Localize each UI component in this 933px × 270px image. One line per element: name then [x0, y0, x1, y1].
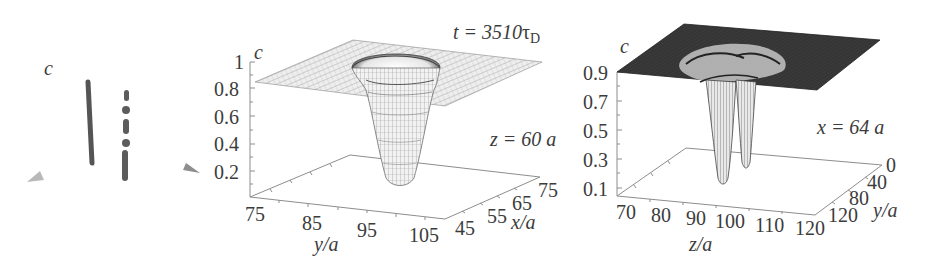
- ytick-c-1: 40: [867, 172, 887, 192]
- ytick-b-3: 105: [409, 225, 439, 245]
- xtick-c-0: 70: [616, 202, 636, 222]
- ztick-c-1: 0.7: [583, 92, 608, 112]
- ytick-c-0: 0: [886, 155, 896, 175]
- ztick-b-0: 1: [234, 52, 244, 72]
- ztick-c-3: 0.3: [583, 150, 608, 170]
- surface-well-1: [706, 80, 736, 184]
- right-marker-icon: [183, 163, 200, 173]
- ylabel-b: y/a: [314, 234, 338, 254]
- ztick-c-4: 0.1: [583, 179, 608, 199]
- xtick-c-1: 80: [651, 205, 671, 225]
- panel-a-c-label: c: [44, 58, 53, 78]
- panel-b-time-label: t = 3510τD: [453, 22, 540, 46]
- left-marker-icon: [27, 171, 44, 182]
- ztick-b-2: 0.6: [214, 107, 239, 127]
- ztick-c-2: 0.5: [583, 121, 608, 141]
- xlabel-b: x/a: [511, 212, 535, 232]
- droplet-chain: [122, 90, 130, 181]
- xtick-b-2: 65: [512, 193, 532, 213]
- time-text: t = 3510: [453, 21, 522, 43]
- ztick-b-3: 0.4: [214, 134, 239, 154]
- tau-symbol: τ: [522, 21, 530, 43]
- xlabel-c: z/a: [689, 234, 712, 254]
- xtick-b-3: 75: [538, 180, 558, 200]
- ylabel-c: y/a: [873, 200, 897, 220]
- panel-b-slice-label: z = 60 a: [490, 129, 556, 149]
- xtick-c-4: 110: [755, 215, 784, 235]
- cylindrical-rod: [88, 82, 92, 163]
- ztick-b-4: 0.2: [214, 162, 239, 182]
- xtick-c-5: 120: [795, 218, 825, 238]
- surface-well-2: [736, 80, 756, 168]
- xtick-b-0: 45: [455, 218, 475, 238]
- ytick-b-1: 85: [302, 213, 322, 233]
- xtick-c-3: 100: [715, 211, 745, 231]
- ytick-b-2: 95: [357, 220, 377, 240]
- xtick-c-2: 90: [686, 208, 706, 228]
- ytick-c-3: 120: [828, 205, 858, 225]
- panel-c-c-label: c: [620, 36, 629, 56]
- panel-b-c-label: c: [254, 42, 263, 62]
- c-axis-ticks: [250, 62, 255, 184]
- ztick-c-0: 0.9: [583, 63, 608, 83]
- ytick-b-0: 75: [245, 204, 265, 224]
- panel-c-slice-label: x = 64 a: [817, 117, 884, 137]
- ztick-b-1: 0.8: [214, 79, 239, 99]
- panel-a: [27, 82, 200, 182]
- xtick-b-1: 55: [487, 206, 507, 226]
- surface-well: [352, 68, 440, 186]
- tau-subscript: D: [530, 31, 540, 46]
